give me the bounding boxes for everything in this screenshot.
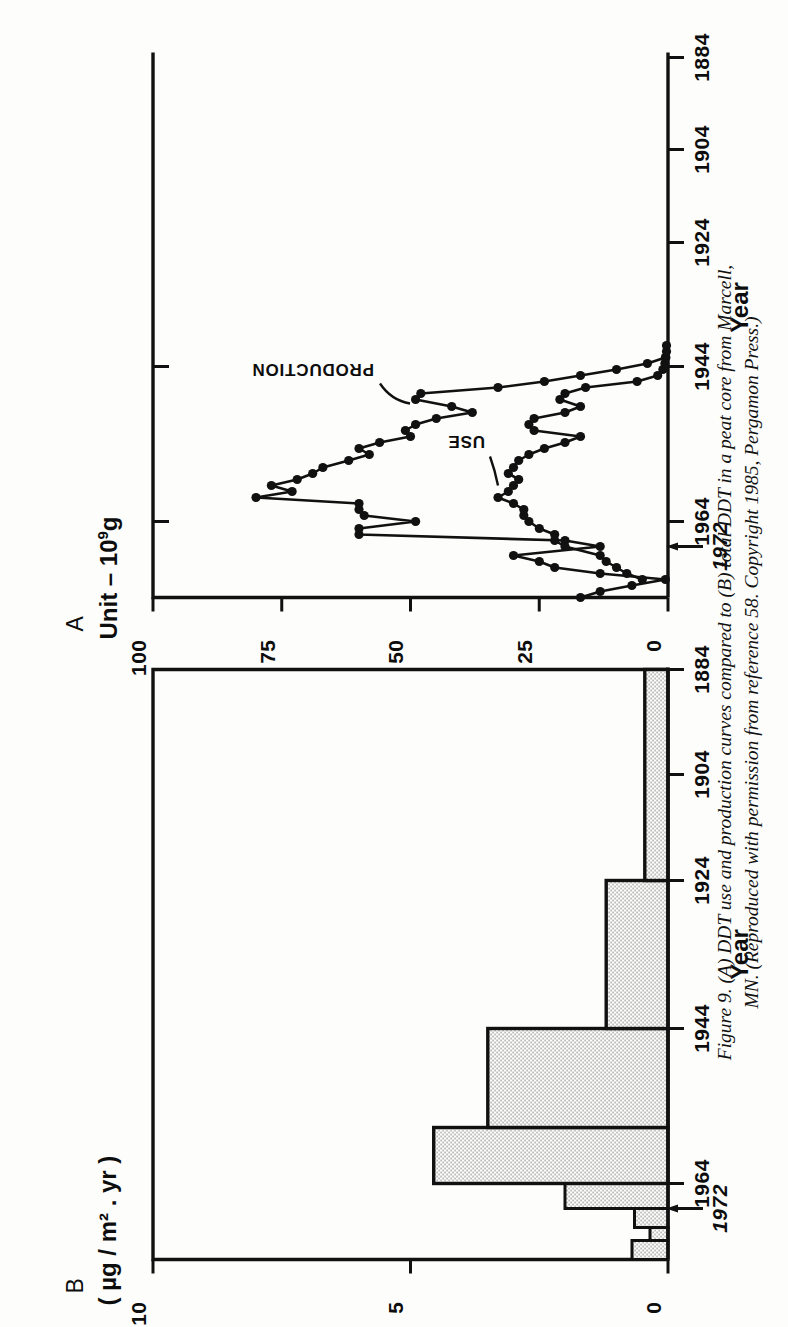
panel-b-y-tick-10: 10 [127,1301,151,1325]
panel-b-x-ticks [668,669,684,1183]
panel-a-x-tick-1924: 1924 [690,218,714,267]
panel-a-use-leader-line [490,456,498,485]
panel-a-production-leader-line [380,383,410,403]
panel-b-x-tick-1924: 1924 [690,856,714,905]
panel-b-y-axis-title: ( µg / m² . yr ) [94,1155,122,1305]
panel-b-letter: B [62,1278,89,1293]
panel-a-x-tick-1904: 1904 [690,125,714,174]
panel-a-y-axis-title-exponent: 9 [94,531,111,539]
panel-b-bars [434,669,668,1259]
panel-a-x-tick-1944: 1944 [690,342,714,391]
panel-a-x-tick-1884: 1884 [690,33,714,82]
panel-a-y-tick-50: 50 [384,639,408,663]
panel-a-y-tick-0: 0 [642,639,666,651]
panel-a-letter: A [62,616,89,631]
panel-b-x-tick-1964: 1964 [690,1159,714,1208]
rotated-page-content: B ( µg / m² . yr ) [0,0,788,1327]
panel-a: A Unit – 109g [58,37,758,637]
panel-a-x-tick-1964: 1964 [690,497,714,546]
panel-b-y-tick-0: 0 [642,1301,666,1313]
panel-b-x-tick-1904: 1904 [690,750,714,799]
panel-a-plot [58,37,758,637]
panel-a-y-axis-title-suffix: g [95,516,122,531]
panel-b-x-tick-1944: 1944 [690,1004,714,1053]
panel-b-plot [58,659,758,1299]
panel-b-y-tick-5: 5 [384,1301,408,1313]
figure-caption: Figure 9. (A) DDT use and production cur… [712,67,766,1257]
panel-b-y-axis-title-text: ( µg / m² . yr ) [94,1155,121,1305]
panel-a-y-axis-title-prefix: Unit – 10 [95,539,122,639]
panel-a-y-tick-75: 75 [256,639,280,663]
panel-a-y-tick-100: 100 [127,639,151,676]
panel-a-use-label: USE [448,430,485,450]
panel-a-production-label: PRODUCTION [252,358,374,378]
panel-a-x-ticks [153,57,684,521]
panel-b: B ( µg / m² . yr ) [58,659,758,1299]
panel-a-y-tick-25: 25 [513,639,537,663]
panel-a-frame [153,52,668,597]
scanned-figure-page: B ( µg / m² . yr ) [0,0,788,1327]
panel-b-x-tick-1884: 1884 [690,645,714,694]
panel-a-y-axis-title: Unit – 109g [94,516,123,639]
